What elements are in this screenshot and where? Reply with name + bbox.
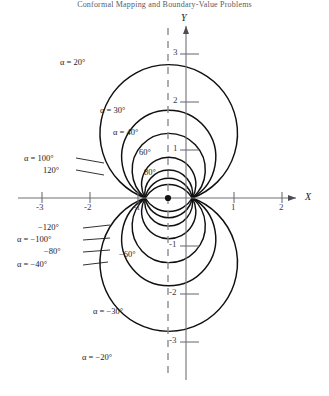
curve-label-alpha-40: α = 40°	[113, 127, 138, 137]
y-tick-label--2: -2	[169, 287, 177, 297]
y-tick-label-2: 2	[173, 95, 178, 105]
curve-label-alpha--100: α = −100°	[17, 234, 51, 244]
curve-label-alpha--80: −80°	[44, 246, 61, 256]
figure-coaxial-circles: X Y -3 -2 -1 1 2 3 2 1 -1 -2 -3 α = 20° …	[0, 0, 329, 396]
x-tick-label--1: -1	[133, 202, 141, 212]
curve-alpha-40	[132, 133, 205, 198]
x-tick-label--2: -2	[84, 202, 92, 212]
curve-label-alpha-30: α = 30°	[100, 105, 125, 115]
figure-svg	[0, 0, 329, 396]
y-tick-label-3: 3	[173, 47, 178, 57]
curve-alpha--40	[132, 198, 205, 263]
label-leader-lines	[76, 158, 110, 265]
curve-label-alpha--120: −120°	[38, 222, 59, 232]
curve-label-alpha--20: α = −20°	[82, 352, 112, 362]
curve-label-alpha--30: α = −30°	[93, 306, 123, 316]
y-tick-label--1: -1	[169, 239, 177, 249]
x-tick-label-2: 2	[279, 202, 284, 212]
curve-label-alpha--60: −60°	[119, 249, 136, 259]
curve-label-alpha-80: 80°	[144, 167, 156, 177]
curve-label-alpha-60: 60°	[139, 147, 151, 157]
curve-label-alpha-100: α = 100°	[24, 153, 54, 163]
x-tick-label-1: 1	[231, 202, 236, 212]
curve-label-alpha-120: 120°	[43, 165, 59, 175]
x-axis-arrow	[288, 195, 296, 201]
y-tick-label--3: -3	[169, 335, 177, 345]
curve-label-alpha-20: α = 20°	[60, 57, 85, 67]
curve-label-alpha--40: α = −40°	[17, 259, 47, 269]
y-axis-arrow	[183, 26, 189, 34]
x-axis-label: X	[305, 191, 311, 202]
marked-point	[165, 195, 171, 201]
y-axis-label: Y	[181, 12, 187, 23]
y-tick-label-1: 1	[173, 143, 178, 153]
x-tick-label--3: -3	[36, 202, 44, 212]
